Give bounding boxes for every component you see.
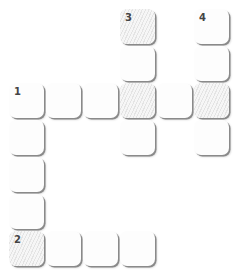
- clue-number: 2: [14, 235, 21, 245]
- crossword-cell[interactable]: [9, 194, 44, 229]
- clue-number: 4: [199, 13, 206, 23]
- crossword-cell[interactable]: [120, 83, 155, 118]
- crossword-cell[interactable]: [120, 120, 155, 155]
- crossword-cell[interactable]: [83, 83, 118, 118]
- crossword-cell[interactable]: [46, 231, 81, 266]
- crossword-cell[interactable]: [157, 83, 192, 118]
- crossword-cell[interactable]: [9, 120, 44, 155]
- crossword-cell[interactable]: [194, 83, 229, 118]
- crossword-cell[interactable]: 1: [9, 83, 44, 118]
- clue-number: 1: [14, 87, 21, 97]
- crossword-cell[interactable]: [46, 83, 81, 118]
- crossword-cell[interactable]: [9, 157, 44, 192]
- crossword-cell[interactable]: 2: [9, 231, 44, 266]
- crossword-cell[interactable]: [194, 120, 229, 155]
- clue-number: 3: [125, 13, 132, 23]
- crossword-cell[interactable]: [83, 231, 118, 266]
- crossword-cell[interactable]: 4: [194, 9, 229, 44]
- crossword-cell[interactable]: [120, 231, 155, 266]
- crossword-cell[interactable]: [120, 46, 155, 81]
- crossword-grid: 3412: [0, 0, 243, 279]
- crossword-cell[interactable]: [194, 46, 229, 81]
- crossword-cell[interactable]: 3: [120, 9, 155, 44]
